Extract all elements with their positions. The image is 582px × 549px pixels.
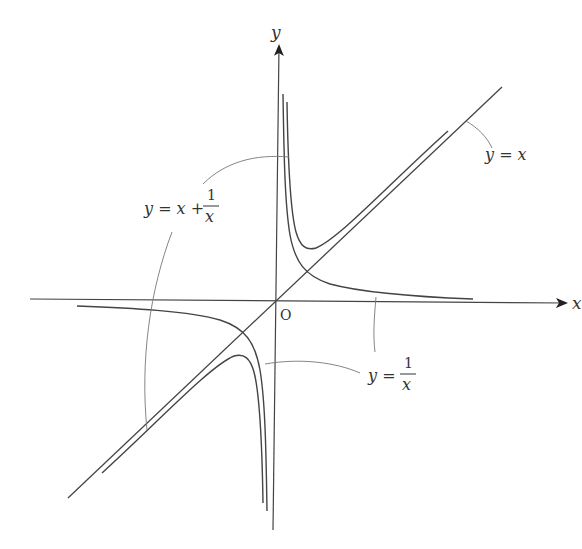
label-curve-den: x bbox=[205, 207, 214, 226]
label-hyperbola-den: x bbox=[402, 375, 411, 394]
label-y-equals-x: y = x bbox=[484, 145, 527, 164]
leader-y-equals-x bbox=[466, 121, 492, 148]
leader-curve-lower bbox=[145, 232, 172, 430]
x-axis-label: x bbox=[572, 293, 582, 313]
graph-canvas: y x O y = x y = x + 1 x y = 1 x bbox=[0, 0, 582, 549]
label-curve-lhs: y = x + bbox=[143, 199, 204, 218]
curve-lower-branch bbox=[102, 355, 263, 503]
y-axis-label: y bbox=[270, 22, 281, 42]
label-hyperbola-lhs: y = bbox=[367, 366, 396, 385]
label-y-equals-1-over-x: y = 1 x bbox=[367, 355, 416, 394]
label-hyperbola-num: 1 bbox=[404, 355, 413, 371]
label-y-equals-x-plus-1-over-x: y = x + 1 x bbox=[143, 187, 219, 226]
leader-curve-upper bbox=[203, 156, 289, 184]
origin-label: O bbox=[280, 307, 291, 323]
leader-hyperbola-lower bbox=[265, 361, 360, 373]
line-y-equals-x bbox=[68, 87, 502, 498]
curve-upper-branch bbox=[287, 102, 448, 249]
x-axis bbox=[30, 299, 566, 303]
leader-hyperbola-upper bbox=[374, 297, 376, 352]
y-axis bbox=[273, 46, 279, 530]
label-curve-num: 1 bbox=[207, 187, 216, 203]
